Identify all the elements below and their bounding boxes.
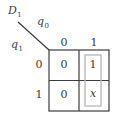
column-header-0: 0: [57, 37, 71, 49]
output-label: D1: [8, 5, 22, 18]
column-var-label: q0: [37, 16, 49, 29]
cell-r0-c1: 1: [86, 59, 100, 71]
row-header-0: 0: [32, 59, 46, 71]
output-var: D: [8, 4, 17, 17]
column-var: q: [37, 15, 44, 28]
row-var: q: [11, 38, 18, 51]
cell-r0-c0: 0: [57, 59, 71, 71]
row-header-1: 1: [32, 89, 46, 101]
row-var-label: q1: [11, 39, 23, 52]
karnaugh-map: D1 q0 q1 0 1 0 1 0 1 0 x: [0, 0, 116, 118]
column-header-1: 1: [87, 37, 101, 49]
row-var-subscript: 1: [19, 45, 23, 53]
column-var-subscript: 0: [45, 22, 49, 30]
cell-r1-c1: x: [86, 88, 100, 100]
output-subscript: 1: [17, 11, 21, 19]
cell-r1-c0: 0: [57, 89, 71, 101]
